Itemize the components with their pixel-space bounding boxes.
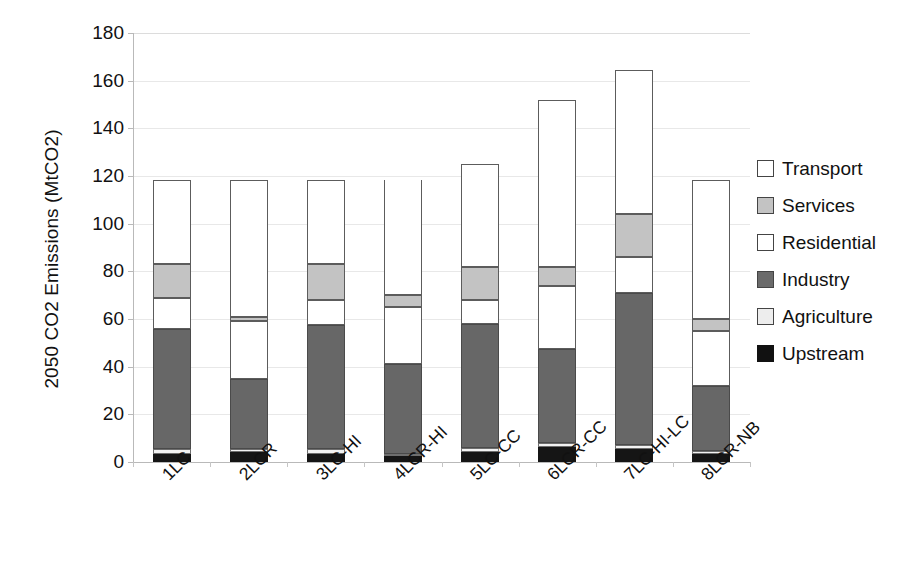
bar-segment-residential[interactable] [461, 300, 499, 324]
legend-swatch-agriculture-icon [757, 308, 774, 325]
bar-segment-services[interactable] [615, 214, 653, 257]
x-tick-mark [442, 462, 443, 467]
legend-label: Agriculture [782, 306, 873, 328]
bar-group[interactable] [461, 33, 499, 462]
bar-segment-industry[interactable] [538, 349, 576, 443]
legend-item-industry[interactable]: Industry [757, 261, 907, 298]
bar-segment-residential[interactable] [307, 300, 345, 325]
stacked-bar-chart: 2050 CO2 Emissions (MtCO2) 0204060801001… [0, 0, 915, 585]
bar-group[interactable] [153, 33, 191, 462]
legend-swatch-residential-icon [757, 234, 774, 251]
x-tick-mark [596, 462, 597, 467]
y-axis-title: 2050 CO2 Emissions (MtCO2) [41, 39, 63, 479]
x-tick-mark [133, 462, 134, 467]
legend-label: Upstream [782, 343, 864, 365]
y-tick-label: 80 [103, 260, 124, 282]
legend-item-agriculture[interactable]: Agriculture [757, 298, 907, 335]
bar-segment-services[interactable] [230, 317, 268, 322]
bar-segment-services[interactable] [692, 319, 730, 331]
bar-segment-transport[interactable] [615, 70, 653, 214]
y-tick-label: 60 [103, 308, 124, 330]
bar-group[interactable] [538, 33, 576, 462]
legend-item-residential[interactable]: Residential [757, 224, 907, 261]
bar-group[interactable] [615, 33, 653, 462]
y-tick-label: 160 [92, 70, 124, 92]
bar-group[interactable] [307, 33, 345, 462]
bar-segment-residential[interactable] [153, 298, 191, 329]
x-tick-mark [519, 462, 520, 467]
bar-segment-industry[interactable] [384, 364, 422, 453]
legend-swatch-services-icon [757, 197, 774, 214]
y-tick-label: 140 [92, 117, 124, 139]
bar-segment-residential[interactable] [538, 286, 576, 349]
x-axis-labels: 1LC2LCR3LC-HI4LCR-HI5LC-CC6LCR-CC7LC-HI-… [133, 462, 750, 582]
bar-group[interactable] [230, 33, 268, 462]
x-tick-mark [287, 462, 288, 467]
bar-segment-residential[interactable] [615, 257, 653, 293]
legend-item-transport[interactable]: Transport [757, 150, 907, 187]
y-tick-label: 100 [92, 213, 124, 235]
bar-group[interactable] [692, 33, 730, 462]
y-tick-label: 180 [92, 22, 124, 44]
stacked-bar[interactable] [153, 33, 191, 462]
legend-label: Residential [782, 232, 876, 254]
stacked-bar[interactable] [538, 33, 576, 462]
bar-segment-transport[interactable] [230, 180, 268, 317]
bar-segment-transport[interactable] [153, 180, 191, 265]
bar-segment-services[interactable] [461, 267, 499, 300]
legend-swatch-industry-icon [757, 271, 774, 288]
legend-swatch-upstream-icon [757, 345, 774, 362]
bar-segment-transport[interactable] [307, 180, 345, 265]
bar-segment-transport[interactable] [384, 180, 422, 296]
x-tick-mark [364, 462, 365, 467]
x-tick-mark [210, 462, 211, 467]
y-tick-label: 40 [103, 356, 124, 378]
stacked-bar[interactable] [461, 33, 499, 462]
legend-label: Transport [782, 158, 863, 180]
bar-segment-residential[interactable] [692, 331, 730, 386]
legend-swatch-transport-icon [757, 160, 774, 177]
y-tick-label: 20 [103, 403, 124, 425]
bar-segment-services[interactable] [538, 267, 576, 286]
stacked-bar[interactable] [230, 33, 268, 462]
stacked-bar[interactable] [692, 33, 730, 462]
bar-group[interactable] [384, 33, 422, 462]
stacked-bar[interactable] [384, 33, 422, 462]
y-tick-label: 120 [92, 165, 124, 187]
bar-segment-transport[interactable] [538, 100, 576, 267]
bar-segment-industry[interactable] [153, 329, 191, 450]
y-tick-label: 0 [113, 451, 124, 473]
plot-area: 020406080100120140160180 [133, 33, 750, 462]
stacked-bar[interactable] [307, 33, 345, 462]
bar-segment-transport[interactable] [692, 180, 730, 319]
bar-segment-transport[interactable] [461, 164, 499, 266]
x-tick-mark [750, 462, 751, 467]
chart-legend: TransportServicesResidentialIndustryAgri… [757, 150, 907, 372]
bar-segment-residential[interactable] [384, 307, 422, 364]
legend-label: Services [782, 195, 855, 217]
legend-item-upstream[interactable]: Upstream [757, 335, 907, 372]
bar-segment-industry[interactable] [230, 379, 268, 449]
stacked-bar[interactable] [615, 33, 653, 462]
bar-segment-residential[interactable] [230, 321, 268, 378]
legend-label: Industry [782, 269, 850, 291]
bar-segment-industry[interactable] [615, 293, 653, 446]
bar-segment-industry[interactable] [307, 325, 345, 449]
bars-layer [133, 33, 750, 462]
x-tick-mark [673, 462, 674, 467]
bar-segment-services[interactable] [307, 264, 345, 300]
bar-segment-services[interactable] [384, 295, 422, 307]
bar-segment-services[interactable] [153, 264, 191, 297]
bar-segment-industry[interactable] [461, 324, 499, 448]
legend-item-services[interactable]: Services [757, 187, 907, 224]
